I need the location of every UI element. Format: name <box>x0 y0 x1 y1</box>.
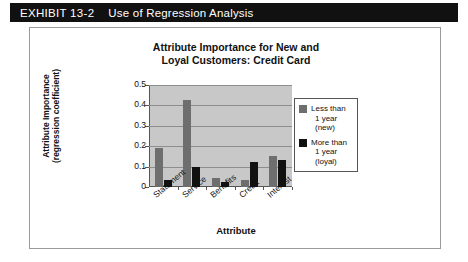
y-tick-label: 0 <box>116 181 146 191</box>
x-tick-mark <box>235 187 236 190</box>
y-axis-title-line1: Attribute Importance <box>41 74 51 158</box>
exhibit-header-bar: EXHIBIT 13-2 Use of Regression Analysis <box>10 3 458 22</box>
y-axis-title-line2: (regression coefficient) <box>51 52 61 180</box>
y-tick-label: 0.3 <box>116 120 146 130</box>
y-tick-label: 0.2 <box>116 140 146 150</box>
bar-group <box>269 85 286 187</box>
y-tick-label: 0.5 <box>116 79 146 89</box>
chart-title-line1: Attribute Importance for New and <box>153 41 319 53</box>
x-tick-mark <box>292 187 293 190</box>
legend-label-series-0-line2: 1 year (new) <box>311 114 353 133</box>
legend-label-series-1-line2: 1 year (loyal) <box>311 147 353 166</box>
x-tick-mark <box>263 187 264 190</box>
exhibit-title: Use of Regression Analysis <box>94 7 253 19</box>
bar-group <box>155 85 172 187</box>
chart-title: Attribute Importance for New and Loyal C… <box>30 41 442 67</box>
legend-label-series-1-line1: More than <box>311 138 347 147</box>
chart-legend: Less than 1 year (new) More than 1 year … <box>294 98 358 172</box>
x-tick-mark <box>206 187 207 190</box>
bar-statement-series-0 <box>155 148 163 187</box>
legend-label-series-0-line1: Less than <box>311 104 346 113</box>
plot-wrapper: 00.10.20.30.40.5 StatementServiceBenefit… <box>149 85 292 187</box>
y-axis-title: Attribute Importance (regression coeffic… <box>41 52 61 180</box>
y-tick-label: 0.4 <box>116 99 146 109</box>
bar-group <box>241 85 258 187</box>
bar-group <box>212 85 229 187</box>
x-tick-mark <box>178 187 179 190</box>
legend-item-more-than-1-year: More than 1 year (loyal) <box>299 138 353 167</box>
figure-card: Attribute Importance for New and Loyal C… <box>29 27 441 249</box>
legend-item-less-than-1-year: Less than 1 year (new) <box>299 104 353 133</box>
bar-group <box>183 85 200 187</box>
chart-title-line2: Loyal Customers: Credit Card <box>30 54 442 67</box>
legend-swatch-icon-series-1 <box>299 139 307 147</box>
x-axis-title: Attribute <box>30 225 442 236</box>
y-tick-label: 0.1 <box>116 161 146 171</box>
legend-swatch-icon-series-0 <box>299 105 307 113</box>
exhibit-number: EXHIBIT 13-2 <box>10 7 94 19</box>
